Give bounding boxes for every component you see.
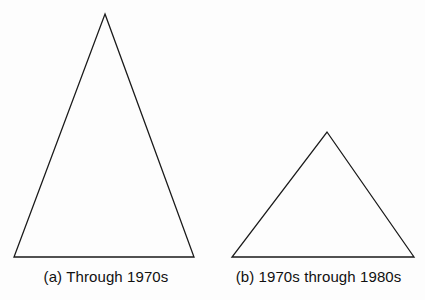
caption-panel-a: (a) Through 1970s: [0, 268, 212, 286]
caption-panel-b: (b) 1970s through 1980s: [212, 268, 425, 286]
triangles-diagram: [0, 0, 425, 300]
triangle-b: [232, 132, 414, 257]
figure-container: (a) Through 1970s (b) 1970s through 1980…: [0, 0, 425, 300]
triangle-a: [14, 14, 194, 257]
